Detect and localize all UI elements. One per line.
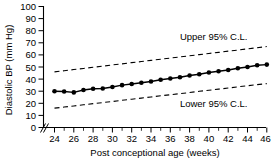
data-point-marker	[139, 80, 144, 85]
data-point-marker	[91, 86, 96, 91]
x-tick-label-34: 34	[146, 133, 157, 144]
data-point-marker	[216, 69, 221, 74]
data-point-marker	[149, 79, 154, 84]
data-point-marker	[158, 77, 163, 82]
x-tick-label-26: 26	[69, 133, 80, 144]
y-tick-label-0: 0	[31, 122, 36, 133]
data-point-marker	[168, 76, 173, 81]
data-point-marker	[52, 89, 57, 94]
x-tick-label-42: 42	[223, 133, 234, 144]
y-tick-label-90: 90	[25, 13, 36, 24]
data-point-marker	[62, 89, 67, 94]
diastolic-bp-vs-post-conceptional-age-chart: Diastolic BP (mm Hg) Post conceptional a…	[0, 0, 272, 162]
chart-figure: Diastolic BP (mm Hg) Post conceptional a…	[0, 0, 272, 162]
x-axis-title: Post conceptional age (weeks)	[90, 147, 219, 158]
y-tick-label-100: 100	[20, 1, 36, 12]
data-point-marker	[178, 75, 183, 80]
y-tick-label-70: 70	[25, 37, 36, 48]
data-point-marker	[245, 65, 250, 70]
data-point-marker	[255, 63, 260, 68]
data-point-marker	[81, 88, 86, 93]
x-tick-label-30: 30	[107, 133, 118, 144]
data-point-marker	[72, 90, 77, 95]
x-tick-label-38: 38	[184, 133, 195, 144]
data-point-marker	[265, 62, 270, 67]
x-tick-label-46: 46	[260, 133, 271, 144]
data-point-marker	[226, 68, 231, 73]
upper-cl-annotation: Upper 95% C.L.	[180, 31, 248, 42]
data-point-marker	[129, 82, 134, 87]
data-point-marker	[120, 83, 125, 88]
y-tick-label-20: 20	[25, 98, 36, 109]
data-point-marker	[100, 86, 105, 91]
y-tick-label-10: 10	[25, 110, 36, 121]
x-tick-label-40: 40	[204, 133, 215, 144]
y-tick-label-80: 80	[25, 25, 36, 36]
data-point-marker	[110, 85, 115, 90]
y-tick-label-30: 30	[25, 86, 36, 97]
x-tick-label-36: 36	[165, 133, 176, 144]
lower-cl-annotation: Lower 95% C.L.	[180, 98, 248, 109]
y-tick-label-50: 50	[25, 62, 36, 73]
x-tick-label-44: 44	[242, 133, 253, 144]
data-point-marker	[207, 70, 212, 75]
data-point-marker	[187, 73, 192, 78]
x-tick-label-24: 24	[49, 133, 60, 144]
data-point-marker	[236, 66, 241, 71]
x-tick-label-28: 28	[88, 133, 99, 144]
y-tick-label-60: 60	[25, 49, 36, 60]
y-tick-label-40: 40	[25, 74, 36, 85]
y-axis-title: Diastolic BP (mm Hg)	[3, 25, 14, 116]
data-point-marker	[197, 72, 202, 77]
x-tick-label-32: 32	[126, 133, 137, 144]
